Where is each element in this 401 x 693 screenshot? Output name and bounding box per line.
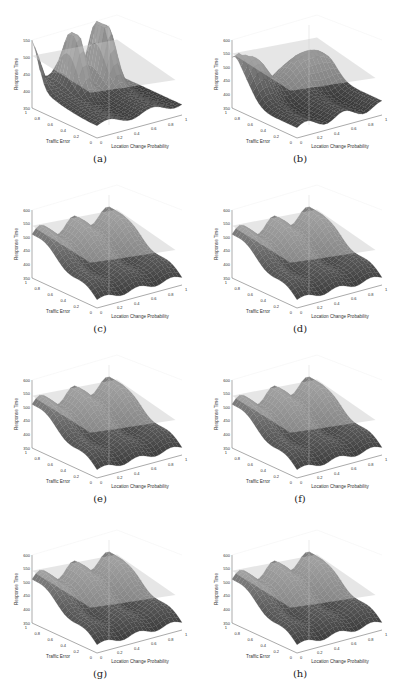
svg-text:550: 550 [223,221,230,226]
plot-panel-b: 35040045050055060000.20.40.60.8100.20.40… [200,0,400,172]
svg-text:0.8: 0.8 [34,116,40,121]
surface-plot: 35040045050055060000.20.40.60.8100.20.40… [200,170,400,330]
svg-text:0.6: 0.6 [247,462,253,467]
y-axis-label: Traffic Error [46,479,70,484]
svg-text:0.8: 0.8 [34,286,40,291]
svg-text:0.2: 0.2 [317,305,323,310]
svg-text:0.6: 0.6 [247,292,253,297]
svg-text:550: 550 [223,566,230,571]
svg-text:400: 400 [23,432,30,437]
svg-text:500: 500 [23,55,30,60]
svg-text:500: 500 [223,65,230,70]
svg-text:450: 450 [23,418,30,423]
x-axis-label: Location Change Probability [111,484,169,489]
x-axis-label: Location Change Probability [111,659,169,664]
svg-text:0.8: 0.8 [234,286,240,291]
svg-text:550: 550 [223,391,230,396]
svg-text:550: 550 [223,51,230,56]
svg-text:1: 1 [225,450,228,455]
svg-text:450: 450 [23,593,30,598]
z-axis-label: Response Time [214,573,219,605]
svg-text:0.8: 0.8 [34,631,40,636]
svg-text:1: 1 [385,632,388,637]
svg-text:600: 600 [223,553,230,558]
svg-text:1: 1 [185,287,188,292]
svg-text:0: 0 [290,140,293,145]
svg-text:1: 1 [225,110,228,115]
svg-text:0.8: 0.8 [168,292,174,297]
svg-text:0: 0 [290,655,293,660]
svg-text:0.8: 0.8 [234,631,240,636]
svg-text:0.4: 0.4 [260,468,266,473]
svg-text:0.2: 0.2 [117,135,123,140]
svg-text:0.6: 0.6 [351,641,357,646]
z-axis-label: Response Time [14,58,19,90]
svg-text:0.8: 0.8 [234,116,240,121]
svg-text:1: 1 [25,110,28,115]
svg-text:400: 400 [23,262,30,267]
svg-text:0: 0 [100,655,103,660]
svg-text:0.8: 0.8 [168,637,174,642]
y-axis-label: Traffic Error [46,654,70,659]
svg-text:0.2: 0.2 [117,650,123,655]
svg-text:0.8: 0.8 [34,456,40,461]
y-axis-label: Traffic Error [46,139,70,144]
svg-text:0.6: 0.6 [47,637,53,642]
svg-text:0: 0 [100,480,103,485]
svg-text:1: 1 [385,287,388,292]
svg-text:0: 0 [90,655,93,660]
svg-text:500: 500 [223,405,230,410]
svg-text:0.6: 0.6 [247,122,253,127]
svg-text:0.4: 0.4 [334,131,340,136]
svg-text:0.4: 0.4 [134,131,140,136]
svg-text:0: 0 [90,310,93,315]
svg-text:0: 0 [90,480,93,485]
surface-plot: 35040045050055060000.20.40.60.8100.20.40… [200,0,400,160]
svg-text:0: 0 [300,480,303,485]
svg-text:550: 550 [23,566,30,571]
svg-text:550: 550 [23,38,30,43]
x-axis-label: Location Change Probability [311,144,369,149]
svg-text:0: 0 [290,310,293,315]
svg-text:1: 1 [185,632,188,637]
svg-text:500: 500 [23,580,30,585]
svg-text:1: 1 [185,457,188,462]
svg-text:1: 1 [25,450,28,455]
plot-panel-g: 35040045050055060000.20.40.60.8100.20.40… [0,515,200,687]
panel-caption: (f) [200,493,400,504]
y-axis-label: Traffic Error [246,139,270,144]
svg-text:0.6: 0.6 [47,122,53,127]
svg-text:0.6: 0.6 [151,126,157,131]
svg-text:0.2: 0.2 [273,474,279,479]
svg-text:0.6: 0.6 [151,296,157,301]
svg-text:450: 450 [223,418,230,423]
svg-text:0.2: 0.2 [273,304,279,309]
svg-text:0.4: 0.4 [134,646,140,651]
svg-text:0.6: 0.6 [151,641,157,646]
svg-text:0: 0 [290,480,293,485]
svg-text:500: 500 [23,235,30,240]
svg-text:0.4: 0.4 [334,301,340,306]
svg-text:0.6: 0.6 [351,466,357,471]
svg-text:1: 1 [385,457,388,462]
x-axis-label: Location Change Probability [311,659,369,664]
z-axis-label: Response Time [14,398,19,430]
svg-text:450: 450 [223,248,230,253]
svg-text:0.2: 0.2 [273,649,279,654]
y-axis-label: Traffic Error [246,654,270,659]
z-axis-label: Response Time [14,573,19,605]
panel-caption: (d) [200,323,400,334]
svg-text:600: 600 [23,208,30,213]
svg-text:400: 400 [23,607,30,612]
svg-text:0: 0 [100,140,103,145]
svg-text:0.6: 0.6 [351,126,357,131]
svg-text:500: 500 [223,580,230,585]
plot-panel-d: 35040045050055060000.20.40.60.8100.20.40… [200,170,400,342]
surface-plot: 35040045050055060000.20.40.60.8100.20.40… [200,340,400,500]
svg-text:0.8: 0.8 [368,122,374,127]
svg-text:0.4: 0.4 [60,468,66,473]
svg-text:0.6: 0.6 [47,462,53,467]
x-axis-label: Location Change Probability [111,144,169,149]
z-axis-label: Response Time [214,58,219,90]
plot-panel-f: 35040045050055060000.20.40.60.8100.20.40… [200,340,400,512]
